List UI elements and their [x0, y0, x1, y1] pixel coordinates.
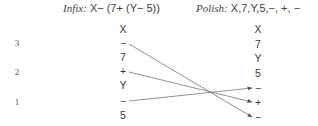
- arrow-level2: [129, 72, 252, 102]
- arrows-layer: [0, 0, 318, 126]
- arrow-level1: [129, 88, 252, 101]
- arrow-level3: [129, 44, 252, 117]
